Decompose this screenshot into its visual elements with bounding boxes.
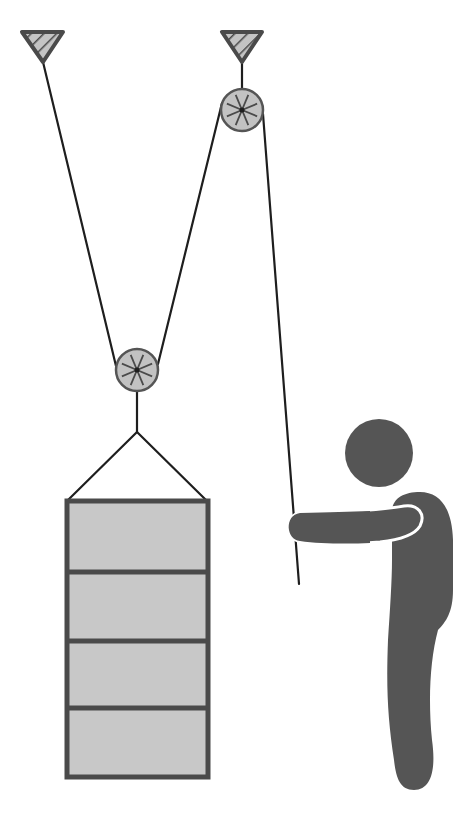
rope-movable-to-fixed: [158, 103, 222, 364]
right-anchor-icon: [222, 32, 262, 62]
rope-left-anchor-to-movable: [43, 62, 116, 366]
person-forearm: [289, 511, 370, 544]
person-pulling-rope: [289, 419, 453, 790]
rope-pull-end: [263, 114, 299, 584]
diagram-canvas: [0, 0, 472, 815]
ceiling-anchors: [22, 32, 262, 62]
sling-left: [67, 432, 137, 501]
hanging-load: [67, 501, 208, 777]
fixed-pulley: [221, 89, 263, 131]
movable-pulley-axle: [135, 368, 140, 373]
pulley-diagram: [0, 0, 472, 815]
sling-right: [137, 432, 207, 501]
movable-pulley: [116, 349, 158, 391]
fixed-pulley-axle: [240, 108, 245, 113]
person-head: [345, 419, 413, 487]
left-anchor-icon: [22, 32, 63, 62]
